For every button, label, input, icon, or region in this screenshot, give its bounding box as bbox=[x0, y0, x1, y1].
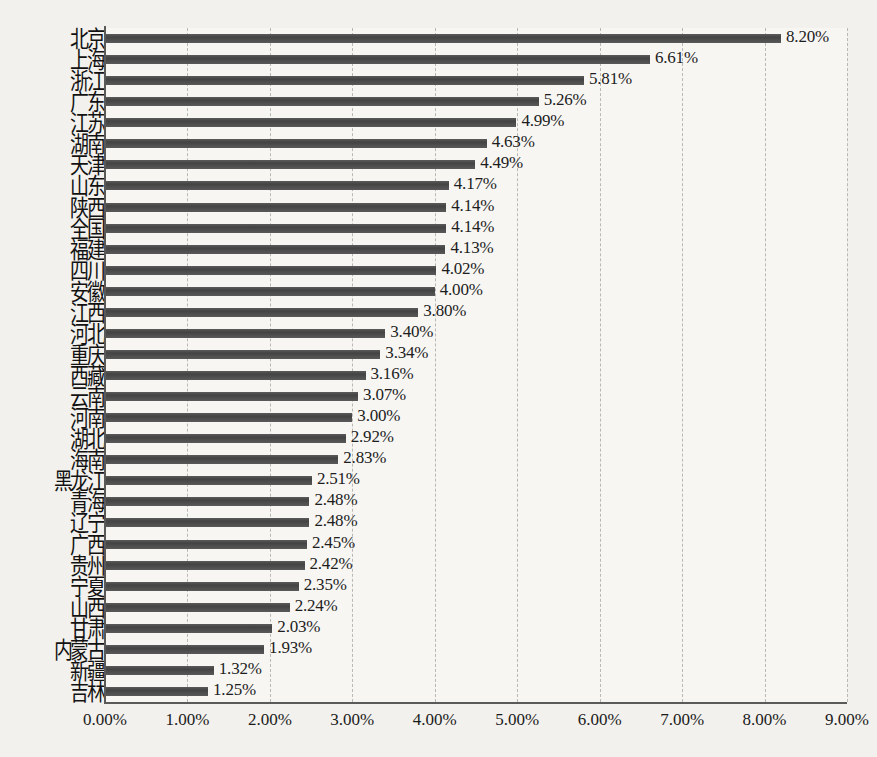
bar-value-label: 5.26% bbox=[544, 90, 587, 110]
bar bbox=[105, 224, 446, 233]
bar-value-label: 1.32% bbox=[219, 659, 262, 679]
bar bbox=[105, 476, 312, 485]
bar bbox=[105, 434, 346, 443]
bar-row: 4.17% bbox=[105, 175, 847, 197]
bar-value-label: 3.34% bbox=[385, 343, 428, 363]
plot-area: 北京上海浙江广东江苏湖南天津山东陕西全国福建四川安徽江西河北重庆西藏云南河南湖北… bbox=[105, 28, 847, 702]
bar bbox=[105, 413, 352, 422]
category-axis-labels: 北京上海浙江广东江苏湖南天津山东陕西全国福建四川安徽江西河北重庆西藏云南河南湖北… bbox=[0, 28, 103, 702]
bar-value-label: 1.25% bbox=[213, 680, 256, 700]
x-tick-label: 8.00% bbox=[743, 710, 787, 730]
bar bbox=[105, 245, 445, 254]
bar-row: 2.51% bbox=[105, 470, 847, 492]
bar-value-label: 2.92% bbox=[351, 427, 394, 447]
bar bbox=[105, 181, 449, 190]
bar bbox=[105, 371, 366, 380]
x-tick-label: 6.00% bbox=[578, 710, 622, 730]
category-label: 吉林 bbox=[0, 681, 103, 703]
bar-row: 4.14% bbox=[105, 197, 847, 219]
bar bbox=[105, 287, 435, 296]
bar-value-label: 3.16% bbox=[371, 364, 414, 384]
bar-row: 4.02% bbox=[105, 260, 847, 282]
bar-row: 4.00% bbox=[105, 281, 847, 303]
gridline bbox=[847, 28, 848, 702]
bar-row: 2.48% bbox=[105, 491, 847, 513]
bar-value-label: 2.51% bbox=[317, 469, 360, 489]
x-tick-label: 2.00% bbox=[248, 710, 292, 730]
bar bbox=[105, 645, 264, 654]
bar-value-label: 4.02% bbox=[441, 259, 484, 279]
category-label-text: 吉林 bbox=[70, 679, 103, 705]
bar-value-label: 2.83% bbox=[343, 448, 386, 468]
bar bbox=[105, 76, 584, 85]
bar-row: 3.00% bbox=[105, 407, 847, 429]
bar-row: 8.20% bbox=[105, 28, 847, 50]
bar-row: 2.92% bbox=[105, 428, 847, 450]
horizontal-bar-chart: 北京上海浙江广东江苏湖南天津山东陕西全国福建四川安徽江西河北重庆西藏云南河南湖北… bbox=[0, 0, 877, 757]
bar-value-label: 3.80% bbox=[423, 301, 466, 321]
bar-value-label: 8.20% bbox=[786, 27, 829, 47]
bar bbox=[105, 582, 299, 591]
bar-row: 2.24% bbox=[105, 597, 847, 619]
bar bbox=[105, 350, 380, 359]
bar-row: 3.16% bbox=[105, 365, 847, 387]
bar-row: 5.81% bbox=[105, 70, 847, 92]
bar-row: 2.42% bbox=[105, 555, 847, 577]
bar-value-label: 2.24% bbox=[295, 596, 338, 616]
bar-value-label: 4.99% bbox=[521, 111, 564, 131]
bar bbox=[105, 497, 309, 506]
bar-row: 2.35% bbox=[105, 576, 847, 598]
x-tick-label: 1.00% bbox=[165, 710, 209, 730]
bar-row: 4.99% bbox=[105, 112, 847, 134]
x-tick-label: 0.00% bbox=[83, 710, 127, 730]
x-tick-label: 4.00% bbox=[413, 710, 457, 730]
x-axis-line bbox=[105, 702, 847, 704]
bar bbox=[105, 561, 305, 570]
bar-row: 5.26% bbox=[105, 91, 847, 113]
bar-value-label: 1.93% bbox=[269, 638, 312, 658]
bar-row: 2.83% bbox=[105, 449, 847, 471]
bar-value-label: 2.03% bbox=[277, 617, 320, 637]
y-axis-line bbox=[104, 26, 106, 704]
bar-row: 1.93% bbox=[105, 639, 847, 661]
x-tick-label: 3.00% bbox=[330, 710, 374, 730]
bar-row: 3.34% bbox=[105, 344, 847, 366]
bar-row: 1.25% bbox=[105, 681, 847, 703]
bar bbox=[105, 687, 208, 696]
bar bbox=[105, 624, 272, 633]
bar bbox=[105, 139, 487, 148]
bar-value-label: 4.17% bbox=[454, 174, 497, 194]
x-tick-label: 5.00% bbox=[495, 710, 539, 730]
bar-row: 1.32% bbox=[105, 660, 847, 682]
bar-value-label: 2.42% bbox=[310, 554, 353, 574]
bar-value-label: 4.14% bbox=[451, 196, 494, 216]
bar-row: 4.63% bbox=[105, 133, 847, 155]
bar bbox=[105, 266, 436, 275]
bar-value-label: 3.00% bbox=[357, 406, 400, 426]
bar bbox=[105, 118, 516, 127]
bar-row: 2.45% bbox=[105, 534, 847, 556]
bar bbox=[105, 203, 446, 212]
bar bbox=[105, 518, 309, 527]
bar-value-label: 4.49% bbox=[480, 153, 523, 173]
bar-row: 6.61% bbox=[105, 49, 847, 71]
bar bbox=[105, 603, 290, 612]
bar-value-label: 4.13% bbox=[450, 238, 493, 258]
bar-row: 3.80% bbox=[105, 302, 847, 324]
bar-row: 2.48% bbox=[105, 512, 847, 534]
bar-row: 4.13% bbox=[105, 239, 847, 261]
bar-value-label: 2.45% bbox=[312, 533, 355, 553]
bar-row: 2.03% bbox=[105, 618, 847, 640]
bar-value-label: 2.48% bbox=[314, 511, 357, 531]
bar bbox=[105, 666, 214, 675]
bar-row: 3.40% bbox=[105, 323, 847, 345]
bar bbox=[105, 34, 781, 43]
bar-value-label: 6.61% bbox=[655, 48, 698, 68]
bar-value-label: 4.14% bbox=[451, 217, 494, 237]
bar bbox=[105, 540, 307, 549]
bar-row: 3.07% bbox=[105, 386, 847, 408]
bar-value-label: 3.40% bbox=[390, 322, 433, 342]
bar bbox=[105, 55, 650, 64]
bar bbox=[105, 308, 418, 317]
bar-value-label: 3.07% bbox=[363, 385, 406, 405]
